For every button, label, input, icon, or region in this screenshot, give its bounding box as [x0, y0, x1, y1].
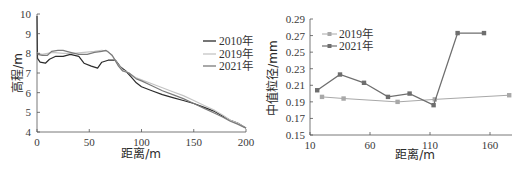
y-tick-label: 7	[26, 67, 32, 79]
data-point-marker	[362, 81, 366, 85]
left-legend: 2010年 2019年 2021年	[203, 34, 253, 72]
x-tick-label: 50	[84, 136, 96, 148]
y-tick-label: 9	[26, 28, 32, 40]
data-point-marker	[455, 31, 459, 35]
legend-label-2021: 2021年	[219, 59, 253, 72]
legend-label-2019: 2019年	[339, 27, 373, 40]
y-tick-label: 4	[26, 126, 32, 138]
grain-size-chart: 0.150.170.190.210.230.250.270.29 1060110…	[265, 13, 512, 162]
data-point-marker	[341, 96, 345, 100]
x-tick-label: 10	[305, 139, 317, 151]
x-tick-label: 60	[365, 139, 377, 151]
data-point-marker	[386, 95, 390, 99]
legend-marker-2021	[328, 44, 332, 48]
y-tick-label: 0.25	[286, 46, 306, 58]
legend-label-2021: 2021年	[339, 39, 373, 52]
legend-marker-2019	[328, 32, 332, 36]
y-tick-label: 10	[20, 8, 32, 20]
y-tick-label: 0.15	[286, 129, 306, 141]
left-x-axis-label: 距离/m	[121, 146, 161, 161]
data-point-marker	[507, 93, 511, 97]
data-point-marker	[407, 91, 411, 95]
data-point-marker	[315, 88, 319, 92]
x-tick-label: 150	[186, 136, 203, 148]
series-line	[37, 16, 246, 128]
data-point-marker	[320, 95, 324, 99]
data-point-marker	[431, 103, 435, 107]
right-legend: 2019年 2021年	[322, 27, 373, 52]
y-tick-label: 0.19	[286, 96, 306, 108]
legend-label-2010: 2010年	[219, 34, 253, 47]
y-tick-label: 5	[26, 106, 32, 118]
y-tick-label: 6	[26, 87, 32, 99]
data-point-marker	[395, 100, 399, 104]
data-point-marker	[482, 31, 486, 35]
y-tick-label: 0.17	[286, 112, 306, 124]
x-tick-label: 0	[34, 136, 40, 148]
figure: 45678910 050100150200 高程/m 距离/m 2010年 20…	[0, 0, 522, 171]
y-tick-label: 0.27	[286, 30, 306, 42]
elevation-chart: 45678910 050100150200 高程/m 距离/m 2010年 20…	[10, 8, 255, 161]
y-tick-label: 8	[26, 47, 32, 59]
series-line	[37, 50, 246, 128]
right-y-ticks: 0.150.170.190.210.230.250.270.29	[286, 13, 313, 141]
y-tick-label: 0.29	[286, 13, 306, 25]
y-tick-label: 0.23	[286, 63, 306, 75]
data-point-marker	[338, 72, 342, 76]
right-x-axis-label: 距离/m	[395, 147, 435, 162]
y-tick-label: 0.21	[286, 79, 305, 91]
legend-label-2019: 2019年	[219, 47, 253, 60]
left-y-axis-label: 高程/m	[10, 53, 25, 93]
right-y-axis-label: 中值粒径/mm	[265, 40, 280, 115]
series-line	[37, 50, 246, 128]
x-tick-label: 160	[482, 139, 499, 151]
left-plot-lines	[37, 16, 246, 128]
x-tick-label: 200	[238, 136, 255, 148]
